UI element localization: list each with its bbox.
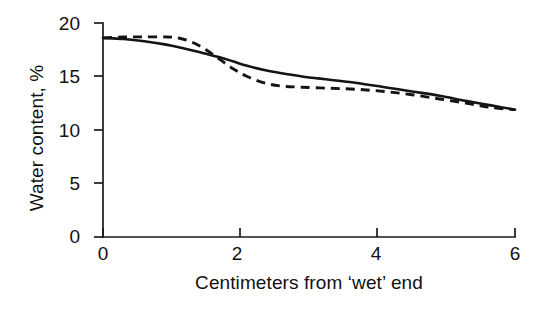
chart-figure: Water content, % 20 15 10 5 0 0 2 4 6 Ce…	[0, 0, 550, 310]
series-solid-curve	[103, 38, 515, 110]
plot-area	[0, 0, 550, 310]
x-axis-title: Centimeters from ‘wet’ end	[103, 272, 515, 294]
